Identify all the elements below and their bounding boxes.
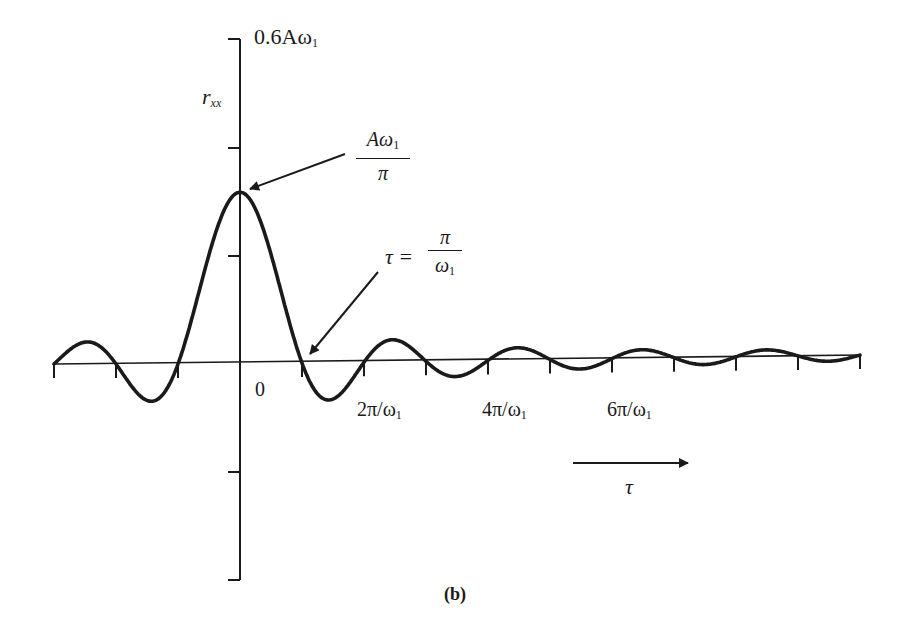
tau-direction-label: τ [625, 474, 633, 500]
x-tick-label-2pi: 2π/ω1 [357, 398, 402, 423]
peak-annotation-arrow [250, 154, 345, 189]
zero-annotation-arrow [310, 272, 378, 354]
zero-annotation-fraction: π ω1 [428, 226, 462, 282]
peak-annotation: Aω1 π [356, 128, 410, 184]
x-tick-label-6pi: 6π/ω1 [607, 398, 652, 423]
figure-caption: (b) [444, 584, 466, 605]
y-top-label: 0.6Aω1 [254, 24, 318, 51]
autocorrelation-figure [0, 0, 911, 624]
origin-label: 0 [255, 378, 265, 401]
zero-annotation-lhs: τ = [385, 244, 413, 270]
x-tick-label-4pi: 4π/ω1 [482, 398, 527, 423]
y-axis-label: rxx [202, 84, 221, 111]
sinc-curve [54, 192, 860, 401]
